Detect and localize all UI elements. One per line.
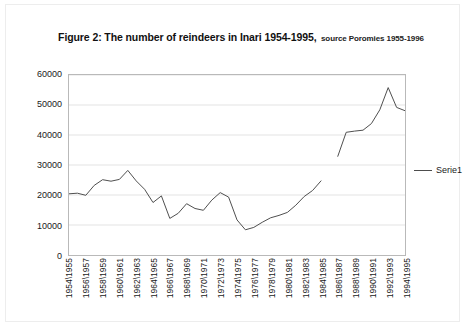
x-axis-tick: 1982\1983 — [301, 258, 311, 298]
plot-area — [68, 74, 406, 256]
x-axis-tick: 1972\1973 — [216, 258, 226, 298]
chart-title: Figure 2: The number of reindeers in Ina… — [46, 25, 436, 47]
x-axis-tick: 1956\1957 — [81, 258, 91, 298]
chart-title-source: source Poromies 1955-1996 — [321, 34, 424, 43]
series-line-serie1 — [338, 88, 405, 157]
chart-title-main: Figure 2: The number of reindeers in Ina… — [58, 31, 316, 43]
x-axis-tick: 1974\1975 — [233, 258, 243, 298]
y-axis-tick: 20000 — [6, 190, 62, 200]
chart-legend: Serie1 — [414, 165, 462, 175]
series-line-serie1 — [69, 170, 321, 229]
y-axis-tick: 60000 — [6, 69, 62, 79]
x-axis-tick: 1992\1993 — [385, 258, 395, 298]
x-axis-tick: 1990\1991 — [368, 258, 378, 298]
legend-label-serie1: Serie1 — [436, 165, 462, 175]
x-axis-tick: 1960\1961 — [115, 258, 125, 298]
x-axis-tick: 1986\1987 — [334, 258, 344, 298]
x-axis-tick: 1970\1971 — [199, 258, 209, 298]
y-axis-tick: 50000 — [6, 99, 62, 109]
y-axis-tick: 10000 — [6, 221, 62, 231]
x-axis-tick: 1958\1959 — [98, 258, 108, 298]
x-axis-tick: 1988\1989 — [351, 258, 361, 298]
y-axis: 0100002000030000400005000060000 — [6, 67, 62, 263]
x-axis-tick: 1976\1977 — [250, 258, 260, 298]
x-axis-tick: 1984\1985 — [318, 258, 328, 298]
y-axis-tick: 0 — [6, 251, 62, 261]
y-axis-tick: 30000 — [6, 160, 62, 170]
x-axis-tick: 1980\1981 — [284, 258, 294, 298]
y-axis-tick: 40000 — [6, 130, 62, 140]
x-axis-tick: 1966\1967 — [165, 258, 175, 298]
figure-frame: Figure 2: The number of reindeers in Ina… — [5, 4, 460, 322]
x-axis: 1954\19551956\19571958\19591960\19611962… — [68, 258, 406, 328]
x-axis-tick: 1978\1979 — [267, 258, 277, 298]
x-axis-tick: 1968\1969 — [182, 258, 192, 298]
x-axis-tick: 1964\1965 — [149, 258, 159, 298]
x-axis-tick: 1994\1995 — [402, 258, 412, 298]
plot-svg — [69, 75, 405, 255]
legend-line-swatch — [414, 170, 432, 171]
x-axis-tick: 1962\1963 — [132, 258, 142, 298]
x-axis-tick: 1954\1955 — [64, 258, 74, 298]
